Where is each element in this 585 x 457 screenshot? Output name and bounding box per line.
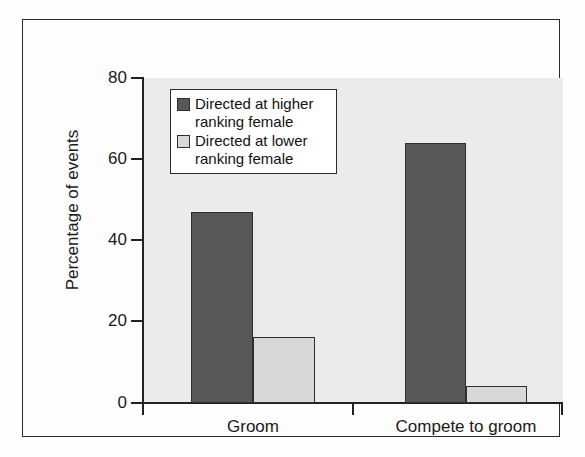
y-tick-label-40-wrap: 40 bbox=[79, 231, 127, 249]
y-tick-0 bbox=[131, 402, 142, 404]
bar-compete-lower-ranking bbox=[466, 386, 527, 403]
bar-compete-higher-ranking bbox=[405, 143, 466, 403]
legend-label-lower-ranking-line2: ranking female bbox=[195, 150, 293, 167]
x-category-label-groom: Groom bbox=[193, 418, 313, 437]
bar-groom-lower-ranking bbox=[253, 337, 315, 403]
y-tick-label-0: 0 bbox=[83, 394, 127, 411]
y-tick-label-20-wrap: 20 bbox=[79, 312, 127, 330]
bar-groom-higher-ranking bbox=[191, 212, 253, 403]
y-tick-label-80-wrap: 80 bbox=[79, 69, 127, 87]
x-tick-right-end bbox=[561, 403, 563, 415]
legend-label-lower-ranking: Directed at lower ranking female bbox=[195, 132, 308, 167]
legend-label-higher-ranking-line1: Directed at higher bbox=[195, 95, 313, 112]
y-tick-label-40: 40 bbox=[83, 231, 127, 248]
legend-entry-higher-ranking: Directed at higher ranking female bbox=[177, 95, 330, 130]
y-tick-20 bbox=[131, 320, 142, 322]
x-tick-left-end bbox=[142, 403, 144, 415]
figure-border: 80 60 40 20 0 Percentage of events Groom… bbox=[22, 19, 560, 437]
y-tick-label-60-wrap: 60 bbox=[79, 150, 127, 168]
legend: Directed at higher ranking female Direct… bbox=[170, 89, 337, 174]
y-axis-line bbox=[142, 77, 144, 404]
y-tick-label-0-wrap: 0 bbox=[79, 394, 127, 412]
y-tick-80 bbox=[131, 77, 142, 79]
figure-canvas: 80 60 40 20 0 Percentage of events Groom… bbox=[0, 0, 585, 457]
legend-swatch-light-icon bbox=[177, 135, 190, 148]
y-tick-label-60: 60 bbox=[83, 150, 127, 167]
legend-label-higher-ranking: Directed at higher ranking female bbox=[195, 95, 313, 130]
legend-entry-lower-ranking: Directed at lower ranking female bbox=[177, 132, 330, 167]
legend-swatch-dark-icon bbox=[177, 98, 190, 111]
legend-label-higher-ranking-line2: ranking female bbox=[195, 113, 293, 130]
y-tick-label-20: 20 bbox=[83, 312, 127, 329]
x-category-label-compete-to-groom: Compete to groom bbox=[376, 418, 556, 437]
y-axis-title: Percentage of events bbox=[63, 100, 83, 320]
x-tick-category-divider bbox=[352, 403, 354, 415]
legend-label-lower-ranking-line1: Directed at lower bbox=[195, 132, 308, 149]
y-tick-label-80: 80 bbox=[83, 69, 127, 86]
y-tick-60 bbox=[131, 158, 142, 160]
y-tick-40 bbox=[131, 239, 142, 241]
